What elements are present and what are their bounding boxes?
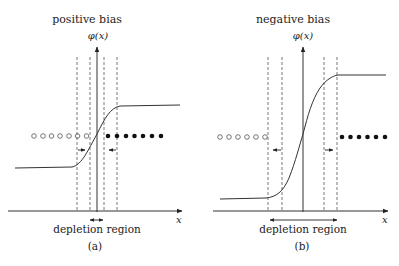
panel-a: positive bias φ(x) x [8,13,182,252]
panel-b-region-label: depletion region [259,223,347,235]
panel-b-phi-label: φ(x) [293,30,314,41]
panel-a-x-label: x [176,214,182,225]
pn-junction-bias-figure: positive bias φ(x) x [0,0,399,266]
panel-a-caption: (a) [88,240,102,252]
panel-a-filled-dots [106,134,164,139]
panel-b-filled-dots [340,135,388,140]
panel-b-x-label: x [382,214,388,225]
panel-b-open-circles [218,135,268,140]
panel-b: negative bias φ(x) x [213,13,388,252]
panel-b-caption: (b) [295,240,310,252]
panel-a-phi-label: φ(x) [88,30,109,41]
panel-a-title: positive bias [52,13,122,26]
panel-a-open-circles [32,134,89,139]
panel-b-title: negative bias [256,13,330,26]
panel-a-region-label: depletion region [53,223,141,235]
